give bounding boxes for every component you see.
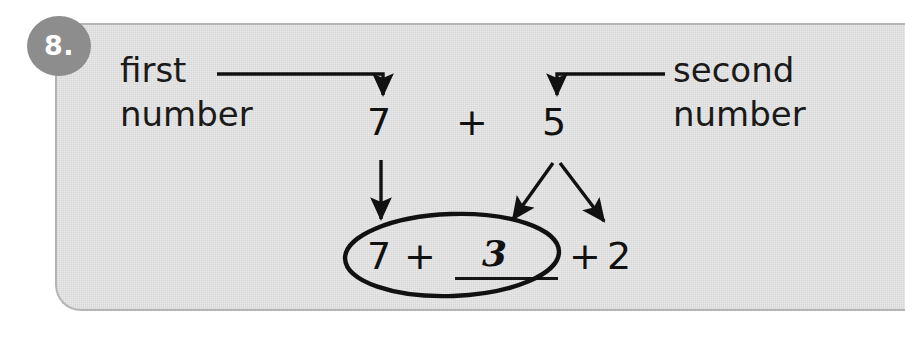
bottom-plus-operator-2: + (569, 234, 601, 278)
bottom-plus-operator-1: + (404, 234, 436, 278)
second-number-label-line2: number (673, 92, 806, 136)
problem-number-badge: 8. (27, 16, 91, 76)
second-number-label: second number (673, 48, 806, 136)
bottom-first-operand: 7 (367, 234, 391, 278)
problem-number-label: 8. (44, 32, 74, 61)
second-number-label-line1: second (673, 48, 806, 92)
top-second-operand: 5 (542, 100, 566, 144)
first-number-label: first number (120, 48, 253, 136)
top-plus-operator: + (456, 100, 488, 144)
top-first-operand: 7 (367, 100, 391, 144)
answer-blank-value[interactable]: 3 (482, 231, 507, 275)
answer-blank-rule[interactable] (455, 277, 558, 280)
first-number-label-line2: number (120, 92, 253, 136)
bottom-last-operand: 2 (607, 234, 631, 278)
first-number-label-line1: first (120, 48, 253, 92)
